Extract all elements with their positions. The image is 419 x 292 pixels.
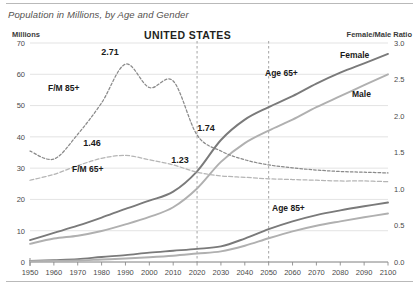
svg-text:0: 0 [21,258,25,267]
series-label-male: Male [352,89,371,99]
annotation-fm85-2020: 1.74 [197,123,215,133]
series-label-female: Female [340,50,370,60]
series-label-age85: Age 85+ [272,203,305,213]
data-series-lines [30,54,388,261]
series-label-age65: Age 65+ [265,68,298,78]
svg-text:2040: 2040 [236,268,253,277]
svg-text:2070: 2070 [308,268,325,277]
annotation-peak-fm85: 2.71 [101,47,119,57]
svg-text:1980: 1980 [93,268,110,277]
annotation-fm65-2020: 1.23 [171,155,189,165]
svg-text:2060: 2060 [284,268,301,277]
svg-text:10: 10 [17,227,25,236]
svg-text:1960: 1960 [46,268,63,277]
svg-text:50: 50 [17,101,25,110]
annotation-fm65-1990: 1.46 [83,138,101,148]
svg-text:1.5: 1.5 [394,148,404,157]
y-axis-tick-labels: 010203040506070 [17,39,25,267]
svg-text:2050: 2050 [260,268,277,277]
svg-text:2.0: 2.0 [394,112,404,121]
chart-figure: Population in Millions, by Age and Gende… [0,0,419,292]
svg-text:2.5: 2.5 [394,75,404,84]
svg-text:2100: 2100 [380,268,397,277]
svg-text:70: 70 [17,39,25,48]
svg-text:1990: 1990 [117,268,134,277]
svg-text:2020: 2020 [189,268,206,277]
svg-text:1.0: 1.0 [394,185,404,194]
svg-text:2080: 2080 [332,268,349,277]
svg-text:0.0: 0.0 [394,258,404,267]
svg-text:20: 20 [17,195,25,204]
x-axis-tick-labels: 1950196019701980199020002010202020302040… [22,268,397,277]
chart-canvas: 010203040506070 0.00.51.01.52.02.53.0 19… [0,0,419,292]
svg-text:2010: 2010 [165,268,182,277]
svg-text:1970: 1970 [69,268,86,277]
svg-text:1950: 1950 [22,268,39,277]
x-axis-ticks [30,262,388,266]
y2-axis-tick-labels: 0.00.51.01.52.02.53.0 [394,39,404,267]
svg-text:40: 40 [17,133,25,142]
series-label-fm65: F/M 65+ [72,164,103,174]
svg-text:2000: 2000 [141,268,158,277]
svg-text:2090: 2090 [356,268,373,277]
series-label-fm85: F/M 85+ [48,83,79,93]
svg-text:30: 30 [17,164,25,173]
svg-text:0.5: 0.5 [394,221,404,230]
svg-text:60: 60 [17,70,25,79]
svg-text:2030: 2030 [213,268,230,277]
svg-text:3.0: 3.0 [394,39,404,48]
